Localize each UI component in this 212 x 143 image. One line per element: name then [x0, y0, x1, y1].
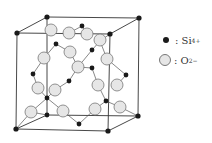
legend-label-o: : O — [174, 55, 189, 66]
legend-item-si: : Si4+ — [158, 30, 212, 50]
unit-cell-diagram — [0, 0, 150, 143]
legend: : Si4+ : O2− — [158, 30, 212, 70]
legend-charge-si: 4+ — [192, 37, 201, 44]
si-atom-icon — [163, 37, 169, 43]
legend-charge-o: 2− — [189, 57, 198, 64]
legend-label-si: : Si — [175, 35, 192, 46]
legend-item-o: : O2− — [158, 50, 212, 70]
o-atom-icon — [159, 54, 171, 66]
